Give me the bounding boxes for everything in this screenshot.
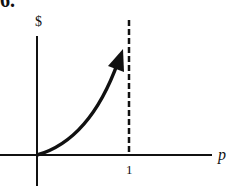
arrowhead-icon	[108, 49, 124, 72]
diagram-canvas	[0, 0, 237, 186]
curve	[37, 62, 118, 155]
